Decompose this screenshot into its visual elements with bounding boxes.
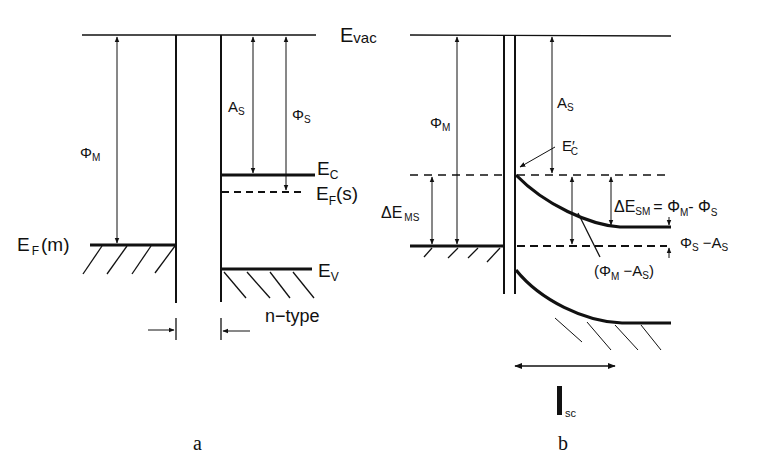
isc-label: sc <box>565 407 577 419</box>
phi-m-label-a: ΦM <box>80 144 100 163</box>
evac-label: Evac <box>340 24 377 46</box>
as-label-a: AS <box>228 98 245 117</box>
phi-m-label-b: ΦM <box>430 114 450 133</box>
phis-minus-as-label: ΦS −AS <box>680 234 729 253</box>
panel-a: ΦM AS ΦS EC EF(s) EF(m) EV n−type a <box>17 35 358 454</box>
conduction-band-curve <box>516 175 671 227</box>
delta-ems-label: ΔEMS <box>381 204 420 223</box>
as-label-b: AS <box>557 94 574 113</box>
ec-label: EC <box>317 158 339 182</box>
ef-m-label: EF(m) <box>17 234 70 258</box>
caption-a: a <box>193 432 202 454</box>
phi-s-label-a: ΦS <box>292 106 311 125</box>
n-type-label: n−type <box>265 306 320 326</box>
ec-prime-label: E′C <box>562 137 578 157</box>
ev-label: EV <box>318 260 339 284</box>
isc-bar-glyph <box>557 386 562 415</box>
metal-hatch-b <box>424 248 500 262</box>
ec-prime-pointer <box>520 147 555 167</box>
ef-s-label: EF(s) <box>316 183 358 208</box>
band-diagram: ΦM AS ΦS EC EF(s) EF(m) EV n−type a Evac <box>0 0 758 475</box>
delta-esm-label: ΔESM= ΦM- ΦS <box>614 198 718 218</box>
evac-line-b <box>410 35 671 36</box>
semiconductor-hatch <box>224 272 314 298</box>
phim-minus-as-label: (ΦM −AS) <box>594 262 654 282</box>
metal-hatch <box>83 246 175 274</box>
caption-b: b <box>558 432 568 454</box>
panel-b: ΦM AS E′C ΔEMS ΔESM= ΦM- ΦS ΦS −AS (ΦM −… <box>381 35 729 454</box>
band-diagram-svg: ΦM AS ΦS EC EF(s) EF(m) EV n−type a Evac <box>0 0 758 475</box>
